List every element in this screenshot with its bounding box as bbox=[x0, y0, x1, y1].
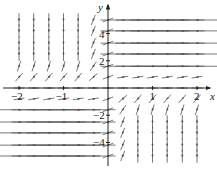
y-axis-label: y bbox=[97, 1, 103, 13]
arrow-head-icon bbox=[182, 109, 183, 111]
arrow-head-icon bbox=[122, 98, 124, 99]
arrow-head-icon bbox=[63, 76, 64, 78]
arrow-head-icon bbox=[33, 76, 34, 78]
arrow-head-icon bbox=[122, 132, 123, 134]
arrow-head-icon bbox=[182, 98, 183, 100]
y-tick-label: −2 bbox=[93, 109, 105, 121]
arrow-head-icon bbox=[33, 65, 34, 67]
arrow-head-icon bbox=[122, 121, 123, 123]
arrow-head-icon bbox=[122, 144, 123, 146]
y-tick-label: −4 bbox=[93, 136, 105, 148]
arrow-head-icon bbox=[18, 76, 19, 78]
arrow-head-icon bbox=[63, 65, 64, 67]
arrow-head-icon bbox=[93, 53, 94, 55]
arrow-head-icon bbox=[78, 65, 79, 67]
arrow-head-icon bbox=[93, 65, 94, 67]
arrow-head-icon bbox=[48, 65, 49, 67]
arrow-head-icon bbox=[137, 109, 138, 111]
arrow-head-icon bbox=[93, 30, 94, 32]
arrow-head-icon bbox=[166, 98, 167, 100]
arrow-head-icon bbox=[77, 76, 78, 78]
arrow-head-icon bbox=[167, 109, 168, 111]
x-tick-label: 1 bbox=[150, 90, 156, 102]
arrow-head-icon bbox=[19, 65, 20, 67]
arrow-head-icon bbox=[93, 42, 94, 44]
y-tick-label: 2 bbox=[99, 55, 105, 67]
x-axis-label: x bbox=[209, 90, 215, 102]
x-tick-label: −2 bbox=[11, 90, 23, 102]
arrow-head-icon bbox=[122, 155, 123, 157]
arrow-head-icon bbox=[93, 19, 94, 21]
arrow-head-icon bbox=[197, 109, 198, 111]
arrow-head-icon bbox=[48, 76, 49, 78]
arrow-head-icon bbox=[92, 76, 94, 77]
vector-field-plot: −2−11242−2−4 x y bbox=[0, 0, 217, 169]
x-tick-label: 2 bbox=[194, 90, 200, 102]
x-tick-label: −1 bbox=[56, 90, 68, 102]
arrow-head-icon bbox=[137, 98, 138, 100]
arrow-head-icon bbox=[122, 109, 123, 111]
y-tick-label: 4 bbox=[99, 28, 105, 40]
arrow-head-icon bbox=[152, 109, 153, 111]
